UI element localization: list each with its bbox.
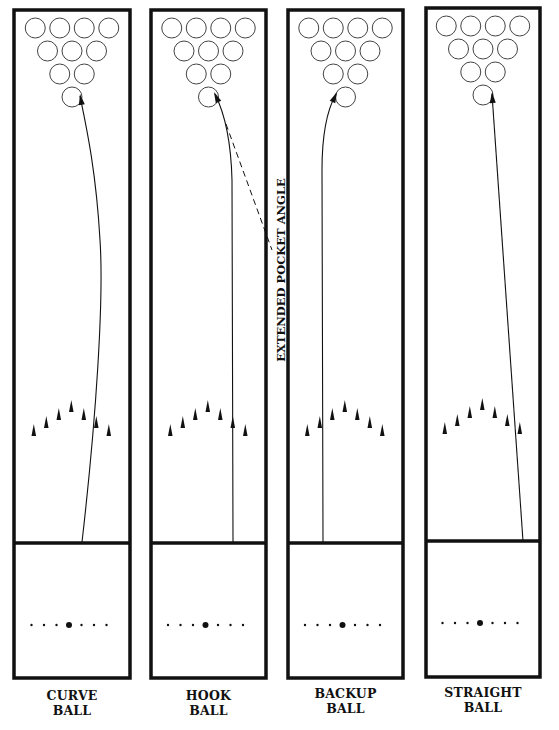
approach-dot xyxy=(242,624,244,626)
lane-arrow-icon xyxy=(193,408,198,420)
approach-dot xyxy=(366,624,368,626)
lane-arrow-icon xyxy=(518,422,523,434)
pin-icon xyxy=(199,41,219,61)
ball-path-hook xyxy=(215,94,233,542)
lane-arrow-icon xyxy=(181,416,186,428)
approach-dot xyxy=(491,622,493,624)
pin-icon xyxy=(74,18,94,38)
approach-dots xyxy=(30,622,107,628)
ball-path-straight xyxy=(492,94,523,541)
lane-arrow-icon xyxy=(318,416,323,428)
pin-icon xyxy=(323,64,343,84)
lane-label-backup-line1: BACKUP xyxy=(288,686,403,701)
approach-dot xyxy=(55,624,57,626)
lane-arrow-icon xyxy=(305,424,310,436)
lane-label-straight-line2: BALL xyxy=(426,700,540,715)
lane-border xyxy=(151,10,266,678)
pin-icon xyxy=(74,64,94,84)
lane-arrow-icon xyxy=(57,408,62,420)
lane-arrows xyxy=(305,400,385,436)
pin-icon xyxy=(360,41,380,61)
pin-icon xyxy=(223,41,243,61)
lane-arrow-icon xyxy=(343,400,348,412)
pin-icon xyxy=(50,64,70,84)
approach-dot xyxy=(93,624,95,626)
pin-deck xyxy=(162,18,256,107)
lane-hook xyxy=(151,10,272,678)
pin-icon xyxy=(311,41,331,61)
approach-dot xyxy=(441,622,443,624)
lane-arrow-icon xyxy=(368,416,373,428)
pin-icon xyxy=(336,87,356,107)
lane-label-curve-line1: CURVE xyxy=(14,688,130,703)
pin-icon xyxy=(62,87,82,107)
lane-label-straight-line1: STRAIGHT xyxy=(426,685,540,700)
lane-arrow-icon xyxy=(493,406,498,418)
lane-arrow-icon xyxy=(455,414,460,426)
pin-icon xyxy=(461,16,481,36)
approach-dot xyxy=(466,622,468,624)
path-arrowhead-icon xyxy=(330,92,337,103)
pin-icon xyxy=(348,64,368,84)
approach-dot xyxy=(516,622,518,624)
center-dot xyxy=(340,622,346,628)
lane-arrow-icon xyxy=(443,422,448,434)
lane-arrow-icon xyxy=(505,414,510,426)
lane-arrow-icon xyxy=(218,408,223,420)
pin-icon xyxy=(99,18,119,38)
lane-arrow-icon xyxy=(355,408,360,420)
approach-dot xyxy=(179,624,181,626)
extended-pocket-angle-label: EXTENDED POCKET ANGLE xyxy=(274,178,288,361)
lane-arrow-icon xyxy=(243,424,248,436)
lane-arrow-icon xyxy=(69,400,74,412)
lane-arrows xyxy=(32,400,112,436)
approach-dot xyxy=(80,624,82,626)
pin-deck xyxy=(299,18,393,107)
lane-border xyxy=(14,10,130,678)
pin-icon xyxy=(38,41,58,61)
lane-label-straight: STRAIGHT BALL xyxy=(426,685,540,715)
approach-dot xyxy=(379,624,381,626)
lane-label-curve-line2: BALL xyxy=(14,703,130,718)
ball-path-curve xyxy=(80,96,101,542)
pin-icon xyxy=(25,18,45,38)
approach-dot xyxy=(105,624,107,626)
pin-icon xyxy=(473,85,493,105)
lane-label-backup-line2: BALL xyxy=(288,701,403,716)
lane-arrow-icon xyxy=(107,424,112,436)
bowling-diagram xyxy=(0,0,559,730)
lane-arrows xyxy=(168,400,248,436)
pin-deck xyxy=(25,18,119,107)
pin-icon xyxy=(449,39,469,59)
pin-icon xyxy=(498,39,518,59)
ball-path-backup xyxy=(322,94,336,542)
pin-icon xyxy=(174,41,194,61)
pin-icon xyxy=(372,18,392,38)
pin-icon xyxy=(461,62,481,82)
pin-icon xyxy=(235,18,255,38)
approach-dot xyxy=(43,624,45,626)
lane-arrow-icon xyxy=(32,424,37,436)
lane-arrow-icon xyxy=(44,416,49,428)
pin-icon xyxy=(186,64,206,84)
lane-straight xyxy=(426,8,540,677)
pin-icon xyxy=(436,16,456,36)
lane-label-hook: HOOK BALL xyxy=(151,688,266,718)
pin-icon xyxy=(485,16,505,36)
approach-dot xyxy=(217,624,219,626)
pin-icon xyxy=(186,18,206,38)
pin-icon xyxy=(485,62,505,82)
lane-border xyxy=(426,8,540,677)
approach-dot xyxy=(229,624,231,626)
center-dot xyxy=(66,622,72,628)
lane-arrow-icon xyxy=(168,424,173,436)
pin-icon xyxy=(323,18,343,38)
approach-dot xyxy=(192,624,194,626)
lane-backup xyxy=(288,10,403,678)
pin-icon xyxy=(211,18,231,38)
pin-icon xyxy=(473,39,493,59)
pin-icon xyxy=(50,18,70,38)
lane-arrow-icon xyxy=(330,408,335,420)
center-dot xyxy=(477,620,483,626)
approach-dot xyxy=(354,624,356,626)
